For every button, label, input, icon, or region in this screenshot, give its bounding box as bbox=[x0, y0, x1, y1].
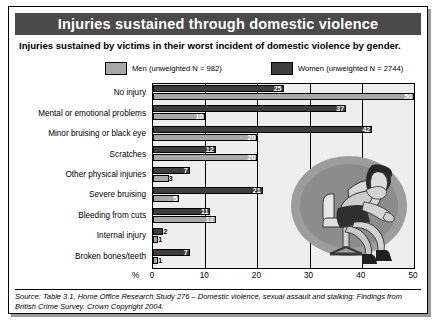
bar-value-label: 7 bbox=[184, 249, 189, 256]
category-label: Internal injury bbox=[97, 231, 146, 240]
category-label: No injury bbox=[114, 88, 146, 97]
bar-value-label: 25 bbox=[274, 85, 283, 92]
bar-women: 7 bbox=[153, 249, 190, 256]
figure-subtitle: Injuries sustained by victims in their w… bbox=[19, 40, 419, 52]
bar-women: 25 bbox=[153, 85, 284, 92]
bar-men: 1 bbox=[153, 236, 158, 243]
bar-value-label: 1 bbox=[157, 257, 163, 264]
bar-group: 73 bbox=[153, 166, 414, 186]
x-tick-label-50: 50 bbox=[408, 271, 417, 280]
bar-men: 5 bbox=[153, 195, 179, 202]
bar-group: 1112 bbox=[153, 207, 414, 227]
legend-swatch-women-icon bbox=[271, 62, 293, 75]
x-axis: % 01020304050 bbox=[152, 271, 415, 283]
legend-label-men: Men (unweighted N = 982) bbox=[132, 64, 222, 73]
bar-value-label: 10 bbox=[195, 113, 204, 120]
legend-swatch-men-icon bbox=[105, 62, 127, 75]
x-tick-label-0: 0 bbox=[150, 271, 155, 280]
source-note-box: Source: Table 3.1, Home Office Research … bbox=[15, 289, 421, 309]
bar-group: 4220 bbox=[153, 125, 414, 145]
source-note: Source: Table 3.1, Home Office Research … bbox=[15, 292, 421, 311]
figure-panel: Injuries sustained through domestic viol… bbox=[8, 6, 428, 314]
x-tick-label-20: 20 bbox=[252, 271, 261, 280]
x-axis-unit-label: % bbox=[132, 271, 139, 280]
bar-value-label: 3 bbox=[168, 175, 174, 182]
bar-women: 12 bbox=[153, 146, 216, 153]
x-tick-label-30: 30 bbox=[304, 271, 313, 280]
bar-men: 3 bbox=[153, 175, 169, 182]
chart-plot-area: 25503710422012207321511122171 bbox=[152, 83, 415, 269]
bar-men: 10 bbox=[153, 113, 205, 120]
bar-women: 42 bbox=[153, 126, 372, 133]
category-label: Severe bruising bbox=[89, 190, 146, 199]
bar-value-label: 20 bbox=[248, 154, 257, 161]
figure-title-banner: Injuries sustained through domestic viol… bbox=[15, 13, 421, 35]
bar-value-label: 20 bbox=[248, 134, 257, 141]
category-label: Mental or emotional problems bbox=[38, 109, 146, 118]
bar-value-label: 11 bbox=[201, 208, 209, 215]
bar-value-label: 37 bbox=[336, 105, 345, 112]
gridline-50 bbox=[414, 84, 415, 268]
chart-legend: Men (unweighted N = 982) Women (unweight… bbox=[105, 62, 425, 75]
bar-value-label: 5 bbox=[173, 195, 178, 202]
category-label: Other physical injuries bbox=[65, 170, 146, 179]
bar-men: 12 bbox=[153, 216, 216, 223]
bar-group: 215 bbox=[153, 186, 414, 206]
bar-women: 21 bbox=[153, 187, 263, 194]
bar-value-label: 42 bbox=[362, 126, 371, 133]
bar-women: 11 bbox=[153, 208, 210, 215]
bar-women: 7 bbox=[153, 167, 190, 174]
bar-men: 20 bbox=[153, 154, 257, 161]
bar-men: 20 bbox=[153, 134, 257, 141]
bar-group: 1220 bbox=[153, 145, 414, 165]
x-tick-label-10: 10 bbox=[200, 271, 209, 280]
bar-group: 21 bbox=[153, 227, 414, 247]
category-label: Scratches bbox=[110, 150, 146, 159]
bar-group: 3710 bbox=[153, 104, 414, 124]
bar-women: 37 bbox=[153, 105, 346, 112]
bar-group: 71 bbox=[153, 248, 414, 268]
page-title: Injuries sustained through domestic viol… bbox=[58, 16, 379, 32]
legend-item-women: Women (unweighted N = 2744) bbox=[271, 62, 403, 75]
category-label: Bleeding from cuts bbox=[78, 211, 146, 220]
legend-label-women: Women (unweighted N = 2744) bbox=[298, 64, 403, 73]
bar-men: 1 bbox=[153, 257, 158, 264]
legend-item-men: Men (unweighted N = 982) bbox=[105, 62, 222, 75]
x-tick-label-40: 40 bbox=[356, 271, 365, 280]
bar-value-label: 12 bbox=[206, 216, 215, 223]
bar-women: 2 bbox=[153, 228, 163, 235]
chart-bars: 25503710422012207321511122171 bbox=[153, 84, 414, 268]
category-axis-labels: No injuryMental or emotional problemsMin… bbox=[13, 83, 149, 269]
bar-value-label: 2 bbox=[162, 228, 168, 235]
category-label: Minor bruising or black eye bbox=[48, 129, 146, 138]
bar-value-label: 7 bbox=[184, 167, 189, 174]
bar-value-label: 12 bbox=[206, 146, 215, 153]
bar-value-label: 21 bbox=[253, 187, 262, 194]
bar-value-label: 1 bbox=[157, 236, 163, 243]
bar-men: 50 bbox=[153, 93, 414, 100]
bar-group: 2550 bbox=[153, 84, 414, 104]
bar-value-label: 50 bbox=[404, 93, 413, 100]
category-label: Broken bones/teeth bbox=[75, 252, 146, 261]
